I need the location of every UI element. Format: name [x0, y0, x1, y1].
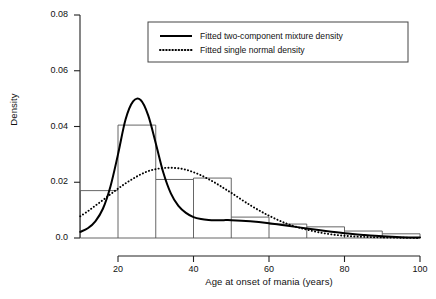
y-tick-label: 0.0 — [34, 232, 68, 242]
y-axis-title: Density — [8, 75, 19, 145]
x-tick-label: 20 — [103, 264, 133, 274]
legend-entry-label: Fitted two-component mixture density — [200, 31, 343, 41]
y-tick-label: 0.06 — [34, 65, 68, 75]
x-tick-label: 100 — [405, 264, 435, 274]
density-chart-figure: Density Age at onset of mania (years) 0.… — [0, 0, 436, 299]
legend-border — [148, 22, 408, 62]
y-tick-label: 0.08 — [34, 9, 68, 19]
x-tick-label: 40 — [179, 264, 209, 274]
legend-box — [148, 22, 408, 62]
density-curve-1 — [80, 99, 420, 238]
legend-entry-label: Fitted single normal density — [200, 45, 305, 55]
y-tick-label: 0.04 — [34, 121, 68, 131]
density-curve-2 — [80, 168, 420, 238]
y-tick-label: 0.02 — [34, 176, 68, 186]
x-axis-title: Age at onset of mania (years) — [118, 276, 420, 287]
x-tick-label: 60 — [254, 264, 284, 274]
x-tick-label: 80 — [330, 264, 360, 274]
